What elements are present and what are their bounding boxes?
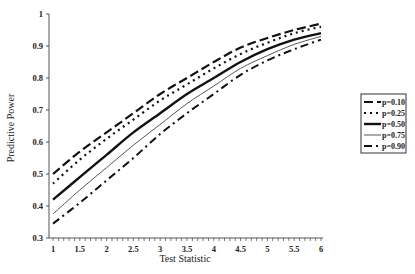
y-tick-label: 1: [39, 9, 43, 19]
y-tick-label: 0.7: [32, 105, 43, 115]
predictive-power-chart: 0.30.40.50.60.70.80.9111.522.533.544.555…: [0, 0, 415, 274]
y-tick-label: 0.9: [32, 41, 43, 51]
y-tick-label: 0.8: [32, 73, 43, 83]
legend-label: p=0.25: [382, 109, 405, 118]
x-tick-label: 1: [51, 244, 55, 254]
x-tick-label: 5: [265, 244, 269, 254]
y-tick-label: 0.4: [32, 201, 43, 211]
x-tick-label: 4.5: [235, 244, 246, 254]
legend-label: p=0.10: [382, 98, 405, 107]
x-tick-label: 5.5: [289, 244, 300, 254]
y-tick-label: 0.5: [32, 169, 43, 179]
legend-label: p=0.75: [382, 131, 405, 140]
x-tick-label: 2.5: [128, 244, 139, 254]
series-line-p025: [53, 27, 321, 184]
legend-label: p=0.90: [382, 142, 405, 151]
y-axis-title: Predictive Power: [5, 93, 16, 162]
y-tick-label: 0.6: [32, 137, 43, 147]
y-tick-label: 0.3: [32, 233, 43, 243]
series-line-p090: [53, 40, 321, 224]
axes: 0.30.40.50.60.70.80.9111.522.533.544.555…: [32, 9, 323, 254]
series-lines: [53, 24, 321, 224]
legend-label: p=0.50: [382, 120, 405, 129]
x-tick-label: 6: [319, 244, 323, 254]
x-tick-label: 4: [212, 244, 217, 254]
series-line-p010: [53, 24, 321, 174]
legend: p=0.10p=0.25p=0.50p=0.75p=0.90: [361, 94, 406, 153]
series-line-p050: [53, 33, 321, 199]
series-line-p075: [53, 36, 321, 214]
x-axis-title: Test Statistic: [159, 253, 211, 264]
x-tick-label: 1.5: [74, 244, 85, 254]
x-tick-label: 2: [104, 244, 108, 254]
